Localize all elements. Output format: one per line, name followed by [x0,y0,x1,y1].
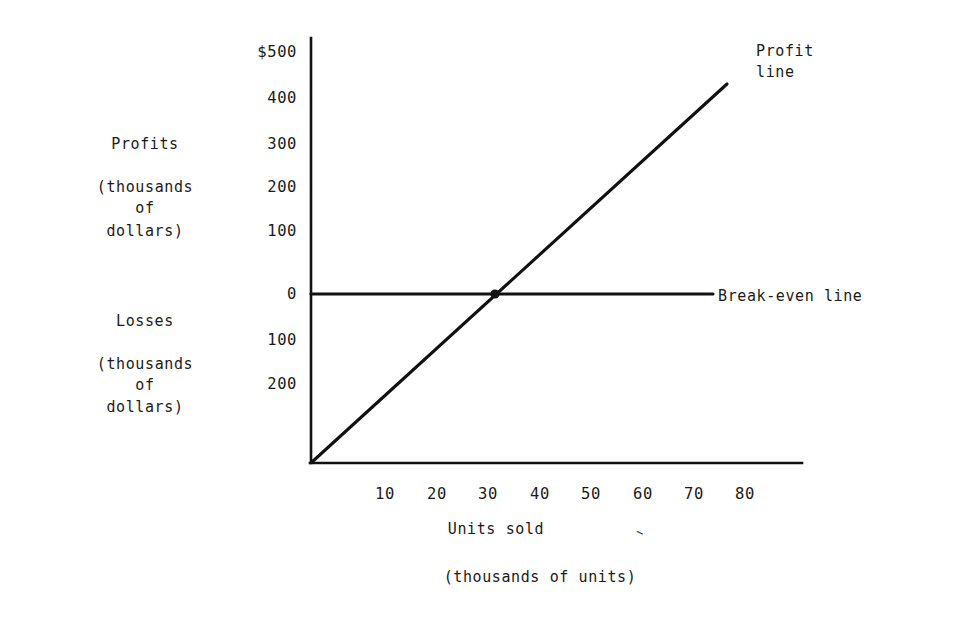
y-tick-label-500: $500 [219,45,297,61]
x-tick-label-20: 20 [415,487,459,503]
x-tick-label-50: 50 [569,487,613,503]
y-axis-label-profits-sub-2: of [55,201,235,216]
y-axis-label-profits-sub-1: (thousands [55,180,235,195]
y-axis-label-losses-sub-2: of [55,378,235,393]
x-tick-label-60: 60 [621,487,665,503]
break-even-line-annotation: Break-even line [718,286,862,307]
y-tick-label-neg100: 100 [219,333,297,349]
x-axis-label-units-sold-sub: (thousands of units) [340,570,740,585]
y-axis-label-profits: Profits [55,137,235,152]
x-tick-label-40: 40 [518,487,562,503]
break-even-chart: $500 400 300 200 100 0 100 200 Profits (… [0,0,956,622]
profit-line-annotation-1: Profit [756,41,814,62]
profit-line-annotation-2: line [756,62,795,83]
x-tick-label-80: 80 [723,487,767,503]
x-tick-label-10: 10 [363,487,407,503]
y-axis-label-losses-sub-1: (thousands [55,357,235,372]
profit-line [312,84,727,462]
y-axis-label-losses-sub-3: dollars) [55,400,235,415]
y-tick-label-400: 400 [219,91,297,107]
y-axis-label-profits-sub-3: dollars) [55,224,235,239]
x-tick-label-70: 70 [672,487,716,503]
x-tick-label-30: 30 [466,487,510,503]
y-axis-label-losses: Losses [55,314,235,329]
break-even-point-marker [490,289,499,298]
y-tick-label-0: 0 [219,287,297,303]
